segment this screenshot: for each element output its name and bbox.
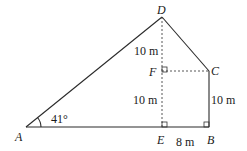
geometry-diagram: D C F A E B 10 m 10 m 10 m 8 m 41° [0, 0, 247, 151]
right-angle-marker-B [204, 122, 209, 127]
point-label-A: A [14, 130, 23, 144]
segment-DC [162, 17, 209, 71]
angle-arc-A [38, 118, 42, 128]
right-angle-marker-E [162, 122, 167, 127]
point-label-E: E [156, 133, 165, 147]
length-label-CB: 10 m [211, 93, 236, 107]
segment-AD [26, 17, 162, 127]
length-label-FE: 10 m [133, 93, 158, 107]
point-label-D: D [156, 3, 166, 17]
point-label-B: B [207, 133, 215, 147]
length-label-DF: 10 m [134, 44, 159, 58]
point-label-C: C [211, 64, 220, 78]
angle-label-A: 41° [51, 112, 68, 126]
length-label-EB: 8 m [176, 135, 195, 149]
point-label-F: F [148, 65, 157, 79]
